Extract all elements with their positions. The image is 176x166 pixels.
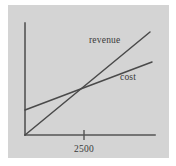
figure-root: revenue cost 2500 [0,0,176,166]
series-label-cost: cost [120,72,136,82]
break-even-chart: revenue cost 2500 [0,0,176,166]
series-label-revenue: revenue [89,35,120,45]
series-line-revenue [25,32,150,135]
x-tick-label-2500: 2500 [74,144,94,154]
series-line-cost [25,62,152,110]
